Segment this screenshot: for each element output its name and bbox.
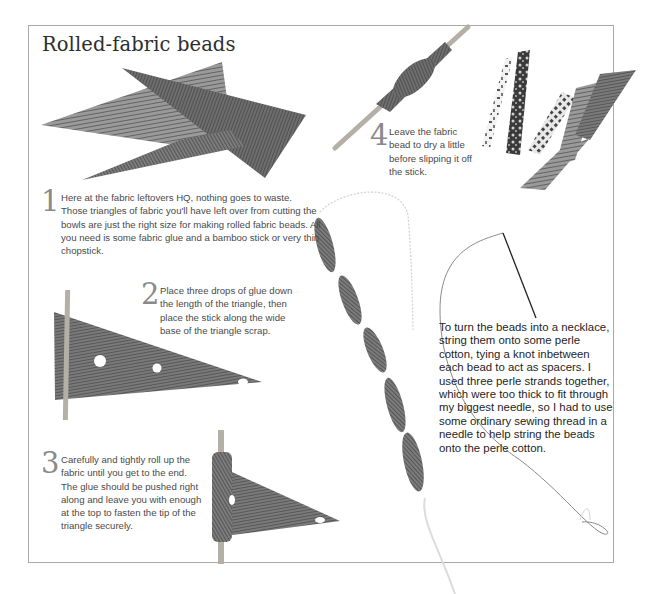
step-number: 3 (41, 449, 59, 478)
step-1: 1 Here at the fabric leftovers HQ, nothi… (61, 191, 321, 257)
step-2: 2 Place three drops of glue down the len… (160, 284, 298, 337)
step-number: 1 (41, 187, 59, 216)
page-title: Rolled-fabric beads (42, 33, 236, 56)
rolling-fabric-photo (212, 430, 340, 564)
step-text: Carefully and tightly roll up the fabric… (61, 454, 201, 531)
step-number: 4 (370, 121, 388, 150)
step-3: 3 Carefully and tightly roll up the fabr… (61, 453, 203, 533)
fabric-triangles-photo (41, 62, 306, 180)
step-4: 4 Leave the fabric bead to dry a little … (389, 125, 475, 178)
step-text: Here at the fabric leftovers HQ, nothing… (61, 192, 321, 256)
step-text: Place three drops of glue down the lengt… (160, 285, 292, 336)
necklace-note: To turn the beads into a necklace, strin… (439, 321, 614, 455)
step-number: 2 (141, 280, 159, 309)
step-text: Leave the fabric bead to dry a little be… (389, 126, 472, 177)
finished-beads-photo (482, 50, 636, 190)
